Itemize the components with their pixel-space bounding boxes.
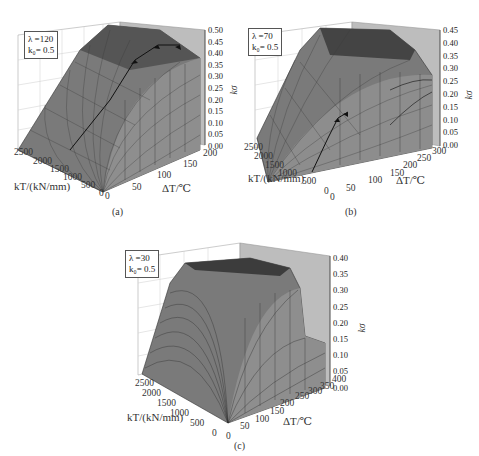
z-tick: 0.15 xyxy=(333,331,348,347)
y-tick-300: 300 xyxy=(432,146,446,156)
x-tick-2500: 2500 xyxy=(14,147,33,157)
z-tick: 0.50 xyxy=(208,25,223,37)
chart-panel-b: λ =70 k₀= 0.5 0.45 0.40 0.35 0.30 0.25 0… xyxy=(240,0,479,228)
y-tick-50: 50 xyxy=(346,183,356,193)
z-tick: 0.30 xyxy=(208,71,223,83)
y-axis-label-b: ΔT/℃ xyxy=(396,174,425,187)
z-axis-ticks-a: 0.50 0.45 0.40 0.35 0.30 0.25 0.20 0.15 … xyxy=(208,25,223,153)
z-tick: 0.20 xyxy=(443,88,458,101)
legend-k0: k₀= 0.5 xyxy=(252,42,278,53)
z-tick: 0.45 xyxy=(208,37,223,49)
y-tick-200: 200 xyxy=(203,148,217,158)
z-tick: 0.20 xyxy=(333,315,348,331)
z-axis-label-c: kσ xyxy=(357,324,367,333)
z-tick: 0.30 xyxy=(333,282,348,298)
x-tick-0: 0 xyxy=(212,428,217,438)
y-tick-50: 50 xyxy=(240,421,250,431)
z-tick: 0.30 xyxy=(443,62,458,75)
x-tick-0: 0 xyxy=(324,186,329,196)
y-tick-400: 400 xyxy=(332,374,346,384)
y-tick-50: 50 xyxy=(132,182,142,192)
z-tick: 0.10 xyxy=(333,347,348,363)
z-tick: 0.25 xyxy=(208,83,223,95)
z-tick: 0.35 xyxy=(333,266,348,282)
z-tick: 0.35 xyxy=(208,60,223,72)
legend-box-a: λ =120 k₀= 0.5 xyxy=(24,31,58,59)
x-tick-500: 500 xyxy=(190,418,204,428)
x-tick-500: 500 xyxy=(81,180,95,190)
y-tick-0: 0 xyxy=(226,431,231,441)
legend-box-b: λ =70 k₀= 0.5 xyxy=(248,28,282,56)
z-axis-label-b: kσ xyxy=(464,91,474,100)
y-tick-200: 200 xyxy=(280,398,294,408)
y-tick-100: 100 xyxy=(157,170,171,180)
legend-lambda: λ =120 xyxy=(28,34,54,45)
legend-k0: k₀= 0.5 xyxy=(129,264,155,275)
y-tick-100: 100 xyxy=(368,175,382,185)
legend-box-c: λ =30 k₀= 0.5 xyxy=(125,250,159,278)
y-tick-200: 200 xyxy=(403,160,417,170)
y-tick-250: 250 xyxy=(417,153,431,163)
z-axis-label-a: kσ xyxy=(229,86,239,95)
y-axis-label-c: ΔT/℃ xyxy=(283,415,312,428)
legend-lambda: λ =70 xyxy=(252,31,278,42)
x-axis-label-c: kT/(kN/mm) xyxy=(127,411,183,423)
legend-lambda: λ =30 xyxy=(129,253,155,264)
y-tick-0: 0 xyxy=(330,192,335,202)
y-tick-100: 100 xyxy=(255,414,269,424)
z-tick: 0.05 xyxy=(208,129,223,141)
x-tick-2500: 2500 xyxy=(135,378,154,388)
caption-b: (b) xyxy=(345,206,357,217)
x-tick-1500: 1500 xyxy=(157,398,176,408)
z-tick: 0.20 xyxy=(208,95,223,107)
y-axis-label-a: ΔT/℃ xyxy=(162,182,191,195)
z-tick: 0.40 xyxy=(443,37,458,50)
z-tick: 0.05 xyxy=(443,126,458,139)
z-tick: 0.10 xyxy=(443,114,458,127)
chart-panel-a: λ =120 k₀= 0.5 0.50 0.45 0.40 0.35 0.30 … xyxy=(0,0,240,228)
z-tick: 0.25 xyxy=(333,299,348,315)
x-axis-label-b: kT/(kN/mm) xyxy=(248,172,304,184)
chart-panel-c: λ =30 k₀= 0.5 0.40 0.35 0.30 0.25 0.20 0… xyxy=(100,228,380,456)
z-tick: 0.45 xyxy=(443,24,458,37)
caption-a: (a) xyxy=(112,206,123,217)
x-tick-2000: 2000 xyxy=(142,388,161,398)
z-tick: 0.35 xyxy=(443,50,458,63)
z-tick: 0.40 xyxy=(208,48,223,60)
y-tick-0: 0 xyxy=(105,191,110,201)
z-tick: 0.40 xyxy=(333,250,348,266)
x-axis-label-a: kT/(kN/mm) xyxy=(14,180,70,192)
y-tick-150: 150 xyxy=(183,159,197,169)
legend-k0: k₀= 0.5 xyxy=(28,45,54,56)
z-tick: 0.15 xyxy=(208,106,223,118)
z-tick: 0.15 xyxy=(443,101,458,114)
x-tick-0: 0 xyxy=(99,188,104,198)
z-tick: 0.10 xyxy=(208,118,223,130)
z-axis-ticks-b: 0.45 0.40 0.35 0.30 0.25 0.20 0.15 0.10 … xyxy=(443,24,458,152)
z-tick: 0.25 xyxy=(443,75,458,88)
caption-c: (c) xyxy=(234,440,245,451)
